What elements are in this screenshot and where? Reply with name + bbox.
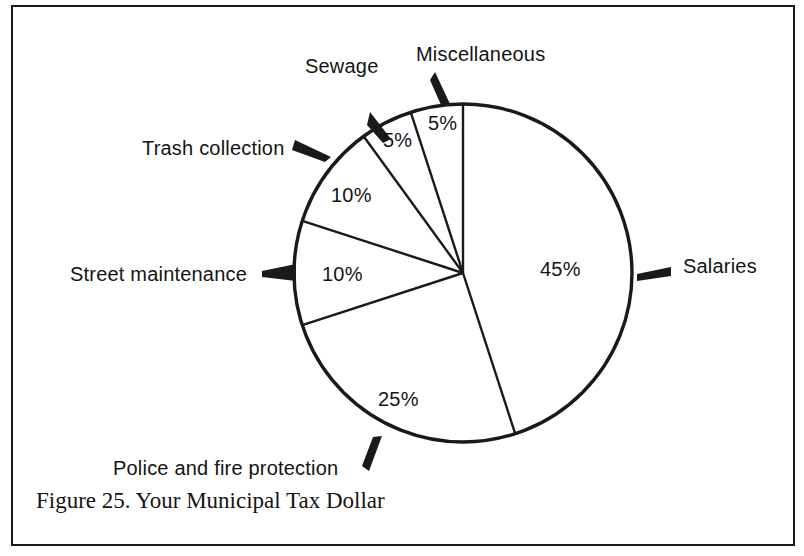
callout-label-salaries: Salaries [683,256,757,276]
callout-label-miscellaneous: Miscellaneous [416,44,545,64]
callout-arrow-police-and-fire [362,436,382,471]
callout-label-street-maintenance: Street maintenance [70,264,247,284]
callout-arrow-trash-collection [292,140,331,162]
slice-value-sewage: 5% [383,130,412,150]
slice-value-miscellaneous: 5% [428,113,457,133]
slice-value-street-maintenance: 10% [322,264,363,284]
callout-arrow-salaries [637,267,671,281]
callout-label-trash-collection: Trash collection [142,138,285,158]
slice-value-salaries: 45% [540,259,581,279]
callout-arrow-miscellaneous [430,72,450,105]
callout-label-police-and-fire: Police and fire protection [113,458,338,478]
slice-value-trash-collection: 10% [331,185,372,205]
figure-caption: Figure 25. Your Municipal Tax Dollar [36,489,385,512]
slice-value-police-and-fire: 25% [378,389,419,409]
figure-page: Sewage Miscellaneous Trash collection St… [0,0,804,556]
callout-label-sewage: Sewage [305,56,378,76]
callout-arrow-street-maintenance [262,264,296,281]
